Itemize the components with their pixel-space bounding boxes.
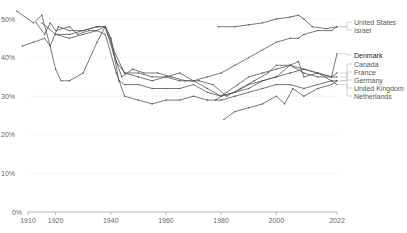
series-line-united-kingdom[interactable] [216, 62, 337, 101]
data-point [331, 76, 332, 77]
legend-label-canada[interactable]: Canada [354, 61, 379, 68]
legend-label-germany[interactable]: Germany [354, 77, 383, 85]
line-chart: 0%10%20%30%40%50% 1910192019401960198020… [0, 0, 407, 233]
data-point [234, 111, 235, 112]
data-point [179, 80, 180, 81]
data-point [276, 68, 277, 69]
data-point [303, 34, 304, 35]
data-point [143, 72, 144, 73]
label-connector [339, 72, 352, 81]
data-point [248, 107, 249, 108]
legend-label-france[interactable]: France [354, 69, 376, 76]
data-point [262, 80, 263, 81]
data-point [223, 119, 224, 120]
label-connector [339, 54, 352, 55]
series-line-germany[interactable] [17, 11, 337, 96]
data-point [276, 41, 277, 42]
data-point [254, 80, 255, 81]
data-point [116, 72, 117, 73]
legend-label-united-kingdom[interactable]: United Kingdom [354, 85, 404, 93]
data-point [69, 38, 70, 39]
legend-label-israel[interactable]: Israel [354, 27, 372, 34]
series-line-denmark[interactable] [23, 27, 338, 97]
data-point [33, 41, 34, 42]
data-point [234, 96, 235, 97]
data-point [289, 16, 290, 17]
data-point [124, 84, 125, 85]
data-point [262, 49, 263, 50]
label-connector [339, 81, 352, 96]
data-point [151, 103, 152, 104]
data-point [325, 28, 326, 29]
data-point [33, 22, 34, 23]
data-point [226, 92, 227, 93]
data-point [165, 99, 166, 100]
data-point [49, 22, 50, 23]
data-point [262, 22, 263, 23]
data-point [138, 99, 139, 100]
data-point [267, 72, 268, 73]
legend-label-united-states[interactable]: United States [354, 19, 397, 26]
data-point [298, 14, 299, 15]
data-point [248, 92, 249, 93]
data-point [44, 38, 45, 39]
data-point [60, 80, 61, 81]
data-point [284, 103, 285, 104]
data-point [22, 45, 23, 46]
data-point [218, 26, 219, 27]
data-point [303, 76, 304, 77]
data-point [303, 88, 304, 89]
data-point [234, 65, 235, 66]
label-connector [339, 22, 352, 27]
data-point [69, 34, 70, 35]
data-point [303, 96, 304, 97]
data-point [331, 80, 332, 81]
data-point [234, 92, 235, 93]
label-connector [339, 27, 352, 30]
data-point [193, 84, 194, 85]
data-point [336, 76, 337, 77]
series-line-israel[interactable] [218, 15, 337, 29]
data-point [276, 18, 277, 19]
data-point [110, 38, 111, 39]
data-point [317, 84, 318, 85]
x-tick-label: 1920 [48, 217, 64, 224]
legend-label-denmark[interactable]: Denmark [354, 52, 383, 59]
data-point [336, 80, 337, 81]
y-tick-label: 10% [1, 170, 15, 177]
data-point [317, 88, 318, 89]
data-point [82, 34, 83, 35]
data-point [215, 99, 216, 100]
data-point [58, 26, 59, 27]
data-point [179, 88, 180, 89]
legend-label-netherlands[interactable]: Netherlands [354, 93, 392, 100]
data-point [336, 72, 337, 73]
data-point [82, 30, 83, 31]
data-point [82, 72, 83, 73]
data-point [55, 68, 56, 69]
x-tick-label: 1980 [213, 217, 229, 224]
series-lines [16, 11, 337, 120]
label-connector [339, 64, 352, 77]
data-point [113, 49, 114, 50]
data-point [121, 76, 122, 77]
data-point [276, 84, 277, 85]
y-tick-label: 50% [1, 16, 15, 23]
data-point [289, 84, 290, 85]
data-point [165, 88, 166, 89]
data-point [36, 22, 37, 23]
series-line-netherlands[interactable] [224, 81, 337, 120]
data-point [132, 68, 133, 69]
data-point [157, 72, 158, 73]
data-point [41, 14, 42, 15]
x-tick-label: 1910 [20, 217, 36, 224]
data-point [193, 80, 194, 81]
data-point [289, 72, 290, 73]
label-connector [339, 73, 352, 80]
data-point [151, 80, 152, 81]
data-point [298, 61, 299, 62]
data-point [124, 96, 125, 97]
data-point [96, 41, 97, 42]
data-point [336, 84, 337, 85]
series-line-france[interactable] [42, 23, 337, 104]
